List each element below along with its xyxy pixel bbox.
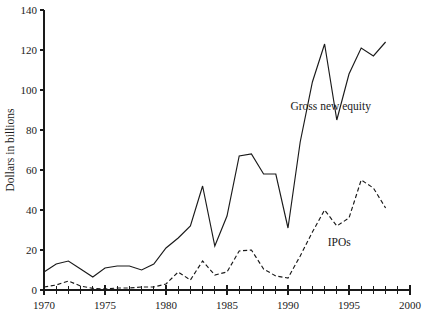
y-axis-tick-label: 40 <box>26 204 38 216</box>
chart-container: 0204060801001201401970197519801985199019… <box>0 0 425 320</box>
y-axis-tick-label: 20 <box>26 244 38 256</box>
series-label-gross-new-equity: Gross new equity <box>290 100 371 113</box>
x-axis-tick-label: 2000 <box>399 299 422 311</box>
x-axis-tick-label: 1980 <box>155 299 178 311</box>
y-axis-title: Dollars in billions <box>4 108 16 192</box>
series-label-ipos: IPOs <box>328 236 352 248</box>
y-axis-tick-label: 100 <box>21 84 38 96</box>
chart-series <box>44 42 386 289</box>
y-axis-tick-label: 120 <box>21 44 38 56</box>
x-axis-tick-label: 1995 <box>338 299 361 311</box>
y-axis-tick-label: 60 <box>26 164 38 176</box>
series-annotations: Gross new equityIPOs <box>290 100 371 248</box>
line-chart: 0204060801001201401970197519801985199019… <box>0 0 425 320</box>
y-axis-tick-label: 80 <box>26 124 38 136</box>
axis-tick-labels: 0204060801001201401970197519801985199019… <box>21 4 422 311</box>
y-axis-tick-label: 140 <box>21 4 38 16</box>
series-line-ipos <box>44 180 386 289</box>
x-axis-tick-label: 1970 <box>33 299 56 311</box>
chart-axes <box>40 10 410 295</box>
x-axis-tick-label: 1975 <box>94 299 117 311</box>
y-axis-tick-label: 0 <box>32 284 38 296</box>
x-axis-tick-label: 1985 <box>216 299 239 311</box>
x-axis-tick-label: 1990 <box>277 299 300 311</box>
